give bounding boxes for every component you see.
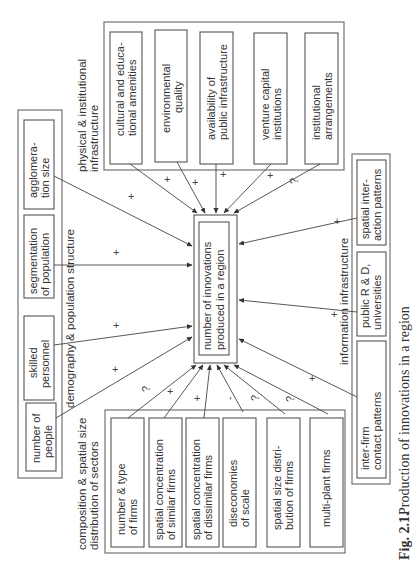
institutional-arrangements-line1: institutional: [310, 85, 322, 140]
concentration-dissimilar-line1: spatial concentration: [190, 439, 202, 540]
concentration-dissimilar-line2: of dissimilar firms: [202, 455, 214, 540]
environmental-quality-line2: quality: [172, 81, 184, 113]
sign-agglomeration: +: [128, 190, 134, 202]
arrow-cultural: [130, 164, 197, 213]
sign-environmental: +: [192, 176, 198, 188]
diseconomies-line2: of scale: [239, 489, 251, 527]
skilled-personnel-line1: skilled: [27, 347, 39, 378]
sign-inter-firm: +: [309, 372, 315, 384]
group-demography-population: demography & population structure agglom…: [18, 110, 76, 478]
diseconomies-line1: diseconomies: [227, 459, 239, 527]
sign-spatial-interaction: +: [334, 215, 340, 227]
spatial-interaction-line1: spatial inter-: [359, 179, 371, 239]
physical-group-label-line1: physical & institutional: [76, 59, 88, 172]
sign-public-rd: +: [331, 308, 337, 320]
sign-multi-plant: ?: [284, 396, 296, 402]
sign-number-type: ?: [140, 386, 152, 392]
central-label-line2: produced in a region: [214, 250, 226, 350]
inter-firm-contact-line1: inter-firm: [359, 427, 371, 470]
sign-number-of-people: +: [112, 363, 118, 375]
central-label-line1: number of innovations: [201, 241, 213, 350]
agglomeration-line2: tion size: [39, 158, 51, 198]
skilled-personnel-line2: personnel: [39, 340, 51, 388]
agglomeration-line1: agglomera-: [27, 142, 39, 198]
institutional-arrangements-line2: arrangements: [322, 72, 334, 140]
concentration-similar-line1: spatial concentration: [153, 439, 165, 540]
segmentation-line2: of population: [39, 233, 51, 296]
inter-firm-contact-line2: contact patterns: [371, 391, 383, 470]
environmental-quality-line1: environmental: [160, 64, 172, 133]
sign-similar: +: [167, 385, 173, 397]
concentration-similar-line2: of similar firms: [165, 469, 177, 540]
number-type-firms-line1: number & type: [115, 463, 127, 535]
sign-diseconomies: -: [223, 396, 235, 400]
venture-capital-line2: institutions: [271, 88, 283, 140]
sign-spatial-size: ?: [249, 395, 261, 401]
arrow-diseconomies: [217, 365, 243, 412]
figure-caption: Fig. 2.1. Production of innovations in a…: [397, 306, 412, 560]
multi-plant-firms-line1: multi-plant firms: [320, 449, 332, 527]
figure-number: Fig. 2.1.: [397, 513, 412, 560]
central-node: number of innovations produced in a regi…: [194, 215, 237, 363]
arrow-number-of-people: [56, 337, 192, 418]
composition-group-label-line2: distribution of sectors: [88, 441, 100, 550]
sign-dissimilar: +: [194, 392, 200, 404]
spatial-size-distribution-line2: bution of firms: [283, 460, 295, 530]
composition-group-label-line1: composition & spatial size: [76, 418, 88, 550]
innovation-diagram: number of innovations produced in a regi…: [0, 0, 416, 571]
public-rd-line2: universities: [371, 274, 383, 330]
figure-caption-text: Production of innovations in a region: [397, 306, 412, 515]
spatial-interaction-line2: action patterns: [371, 168, 383, 241]
group-information-infrastructure: information infrastructure spatial inter…: [338, 154, 390, 484]
group-physical-institutional: physical & institutional infrastructure …: [76, 22, 344, 172]
public-infrastructure-line2: public infrastructure: [217, 44, 229, 140]
segmentation-line1: segmentation: [27, 228, 39, 294]
sign-skilled-personnel: +: [113, 319, 119, 331]
group-composition-sectors: composition & spatial size distribution …: [76, 410, 345, 553]
number-of-people-line1: number of: [30, 413, 42, 463]
public-rd-line1: public R & D,: [359, 264, 371, 328]
sign-public-infrastructure: +: [220, 168, 226, 180]
physical-group-label-line2: infrastructure: [88, 105, 100, 172]
sign-institutional: ?: [288, 178, 300, 184]
cultural-amenities-line2: tional amenities: [126, 59, 138, 136]
cultural-amenities-line1: cultural and educa-: [114, 42, 126, 136]
number-of-people-line2: people: [42, 425, 54, 458]
demography-group-label: demography & population structure: [64, 229, 76, 408]
information-group-label: information infrastructure: [338, 238, 350, 365]
arrow-spatial-size: [224, 365, 285, 414]
sign-segmentation: +: [113, 246, 119, 258]
influence-signs: + + + + ? + + + + ? + + - ? ? + + +: [112, 168, 340, 404]
sign-venture-capital: +: [267, 169, 273, 181]
composition-group-frame: [105, 410, 345, 553]
number-type-firms-line2: of firms: [127, 498, 139, 535]
public-infrastructure-line1: availability of: [205, 76, 217, 140]
sign-cultural: +: [164, 173, 170, 185]
spatial-size-distribution-line1: spatial size distri-: [271, 445, 283, 530]
venture-capital-line1: venture capital: [259, 68, 271, 140]
